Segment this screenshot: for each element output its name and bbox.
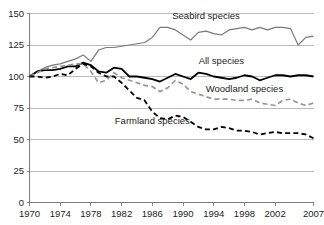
- series-label-woodland-species: Woodland species: [206, 83, 284, 94]
- series-label-seabird-species: Seabird species: [172, 10, 240, 21]
- y-tick-label-100: 100: [8, 71, 24, 82]
- x-tick-label-1978: 1978: [80, 208, 101, 219]
- series-label-all-species: All species: [199, 55, 245, 66]
- series-label-farmland-species: Farmland species: [115, 115, 190, 126]
- axes-group: [27, 14, 314, 206]
- x-tick-label-2002: 2002: [265, 208, 286, 219]
- y-axis-tick-labels: 0255075100125150: [8, 8, 24, 208]
- x-tick-label-1970: 1970: [19, 208, 40, 219]
- x-tick-label-1998: 1998: [234, 208, 255, 219]
- chart-canvas: 0255075100125150 19701974197819821986199…: [0, 0, 324, 225]
- x-axis-tick-labels: 1970197419781982198619901994199820022007: [19, 208, 324, 219]
- x-tick-label-1986: 1986: [142, 208, 163, 219]
- x-tick-label-2007: 2007: [303, 208, 324, 219]
- x-tick-label-1994: 1994: [203, 208, 224, 219]
- series-line-seabird-species: [30, 27, 314, 76]
- bird-population-index-chart: 0255075100125150 19701974197819821986199…: [0, 0, 324, 225]
- y-tick-label-50: 50: [13, 134, 24, 145]
- y-tick-label-125: 125: [8, 39, 24, 50]
- y-tick-label-0: 0: [19, 197, 24, 208]
- y-tick-label-25: 25: [13, 165, 24, 176]
- x-tick-label-1982: 1982: [111, 208, 132, 219]
- x-tick-label-1990: 1990: [172, 208, 193, 219]
- series-annotations-group: Seabird speciesAll speciesWoodland speci…: [115, 10, 284, 127]
- y-tick-label-75: 75: [13, 102, 24, 113]
- y-tick-label-150: 150: [8, 8, 24, 19]
- x-tick-label-1974: 1974: [50, 208, 71, 219]
